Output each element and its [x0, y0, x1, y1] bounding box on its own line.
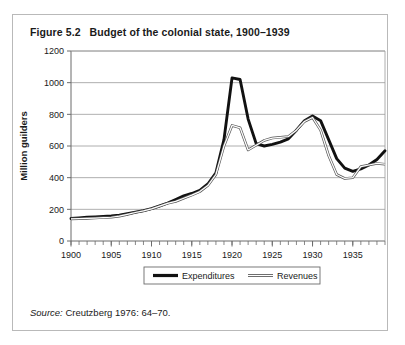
axis-x-tick-label: 1925: [262, 250, 282, 260]
series-line-expenditures: [71, 78, 385, 219]
source-citation: Creutzberg 1976: 64–70.: [65, 307, 170, 318]
series-line-revenues-outline: [71, 118, 385, 219]
chart-plot-container: 020040060080010001200Million guilders190…: [13, 45, 389, 297]
axis-y-tick-label: 800: [49, 110, 64, 120]
axis-x-tick-label: 1905: [101, 250, 121, 260]
axis-x-tick-label: 1915: [182, 250, 202, 260]
axis-y-tick-label: 200: [49, 205, 64, 215]
axis-y-tick-label: 0: [59, 236, 64, 246]
figure-title: Figure 5.2Budget of the colonial state, …: [30, 26, 290, 38]
source-note: Source: Creutzberg 1976: 64–70.: [30, 307, 171, 318]
axis-y-tick-label: 1000: [44, 78, 64, 88]
figure-number: Figure 5.2: [30, 26, 81, 38]
source-label: Source:: [30, 307, 63, 318]
axis-y-tick-label: 400: [49, 173, 64, 183]
budget-line-chart: 020040060080010001200Million guilders190…: [13, 45, 389, 297]
axis-x-tick-label: 1910: [141, 250, 161, 260]
legend-label-expenditures: Expenditures: [182, 271, 235, 281]
legend-label-revenues: Revenues: [277, 271, 318, 281]
figure-card: Figure 5.2Budget of the colonial state, …: [12, 14, 388, 331]
axis-x-tick-label: 1930: [303, 250, 323, 260]
axis-x-tick-label: 1920: [222, 250, 242, 260]
axis-y-title: Million guilders: [18, 111, 29, 181]
axis-y-tick-label: 1200: [44, 46, 64, 56]
axis-x-tick-label: 1935: [343, 250, 363, 260]
axis-x-tick-label: 1900: [61, 250, 81, 260]
figure-title-text: Budget of the colonial state, 1900–1939: [90, 26, 290, 38]
axis-y-tick-label: 600: [49, 141, 64, 151]
